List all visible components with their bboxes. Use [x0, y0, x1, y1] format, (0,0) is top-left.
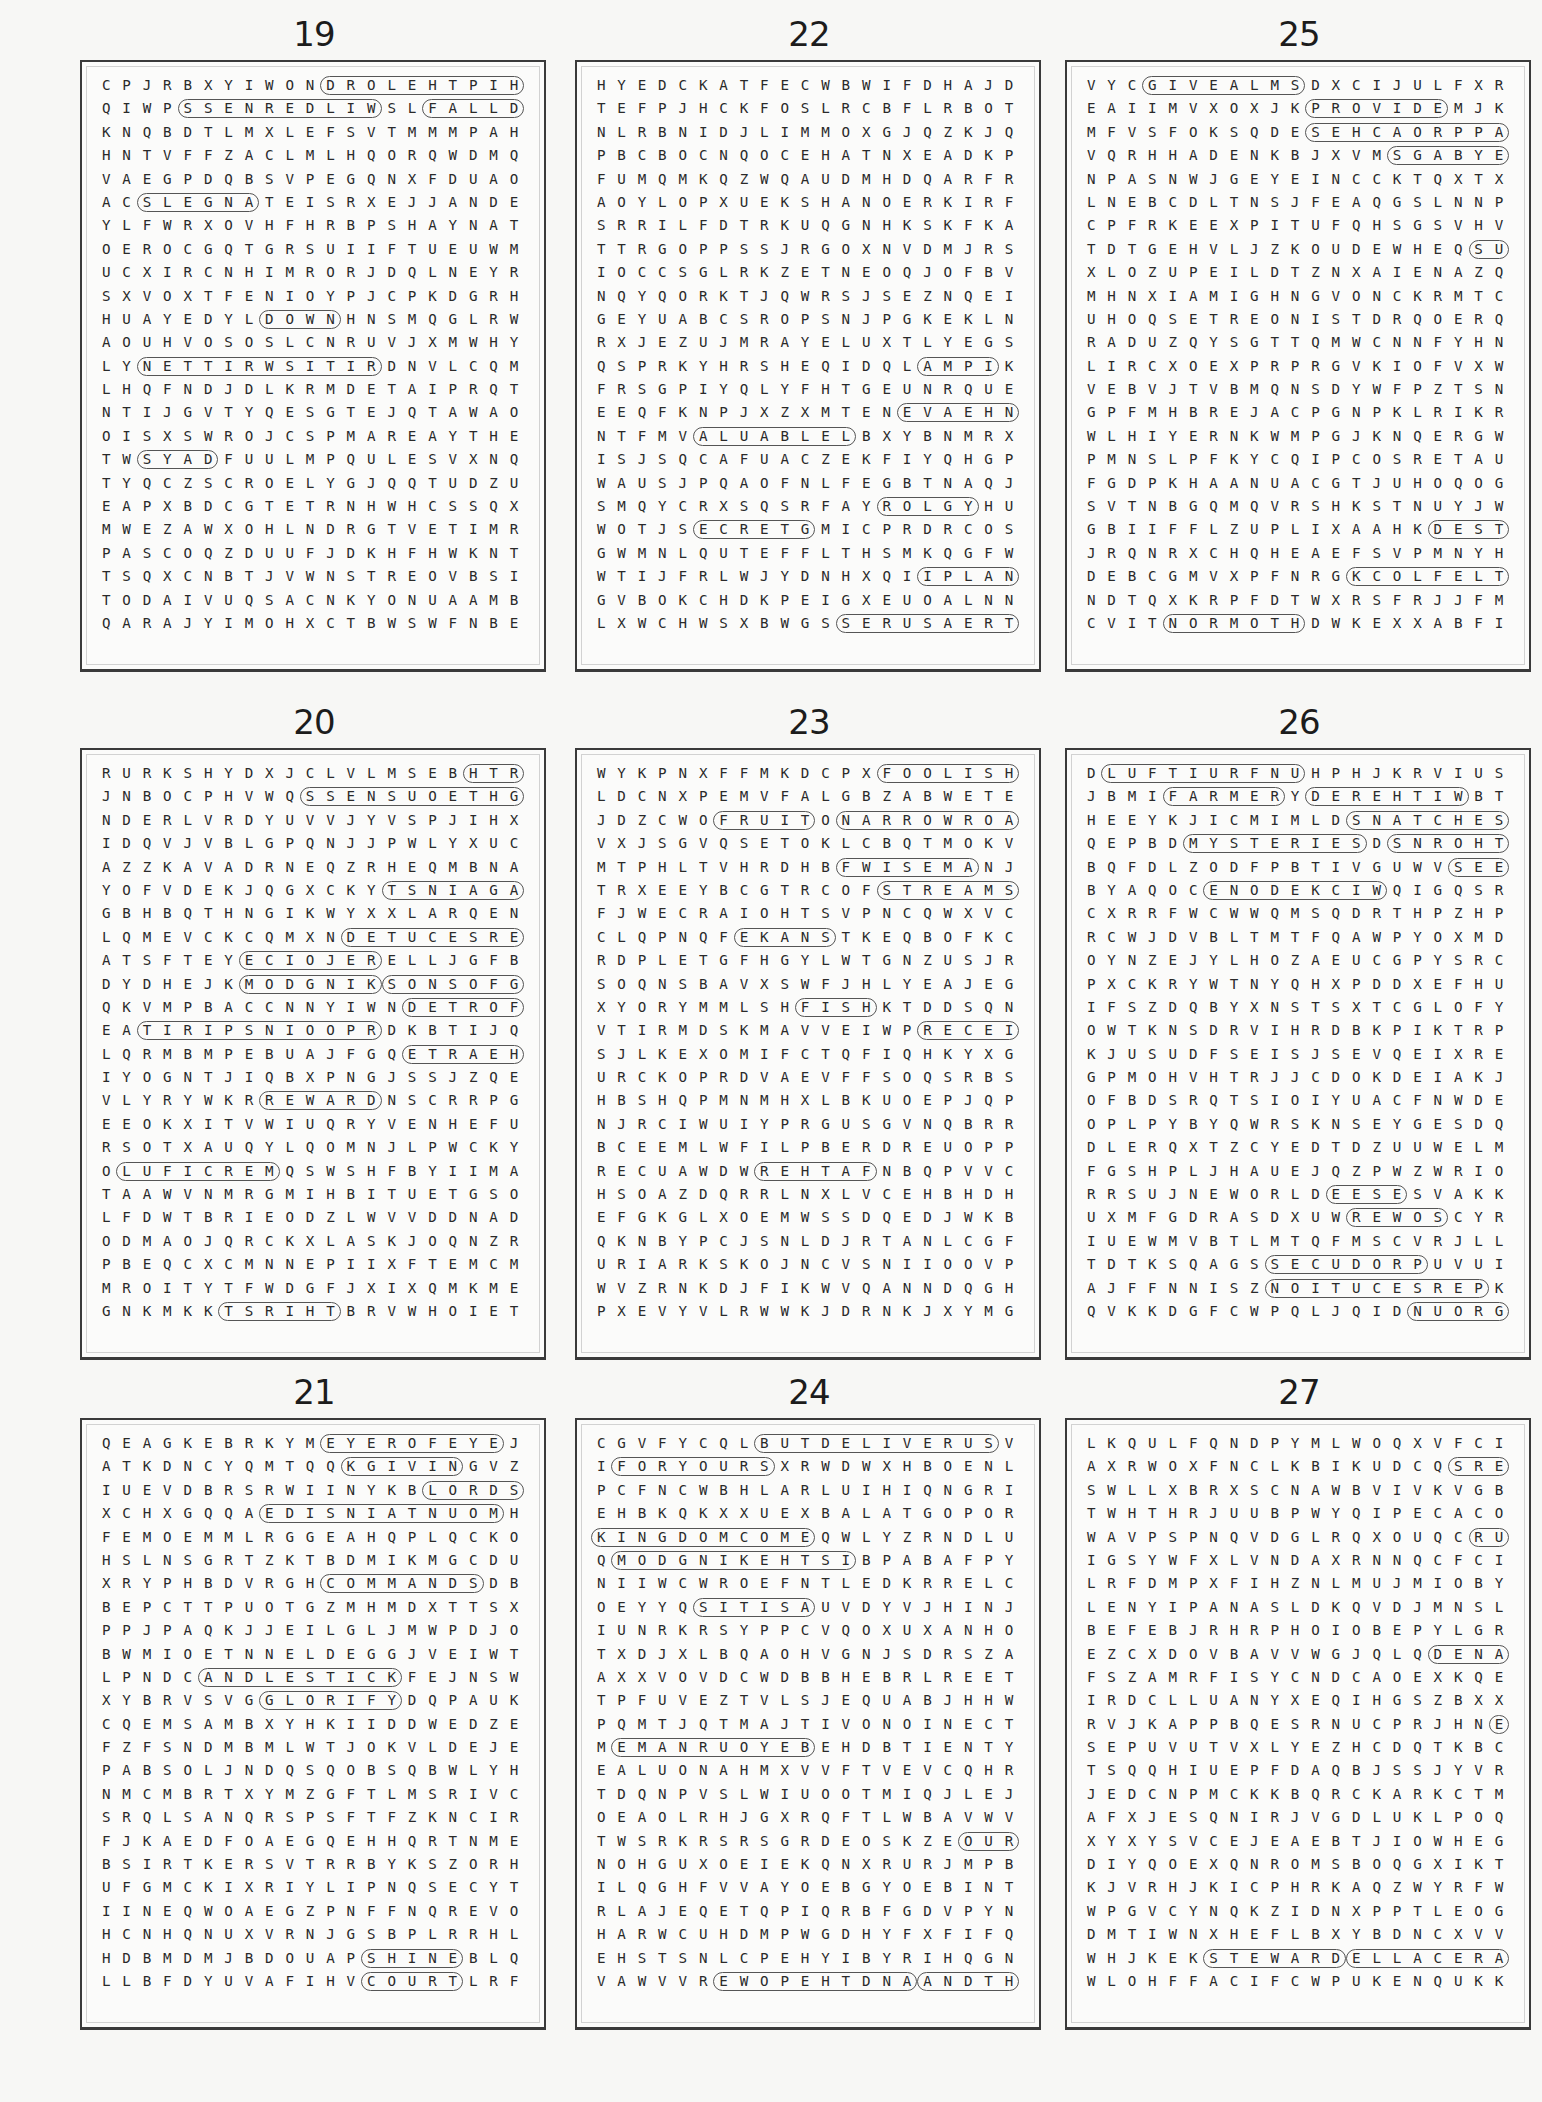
- grid-letter[interactable]: B: [137, 1689, 157, 1712]
- grid-letter[interactable]: N: [795, 472, 815, 495]
- grid-letter[interactable]: M: [1346, 1572, 1366, 1595]
- grid-letter[interactable]: U: [1346, 1970, 1366, 1993]
- grid-letter[interactable]: X: [856, 589, 876, 612]
- grid-letter[interactable]: S: [1428, 1206, 1448, 1229]
- grid-letter[interactable]: F: [1101, 996, 1121, 1019]
- grid-letter[interactable]: M: [652, 425, 672, 448]
- grid-letter[interactable]: N: [463, 1666, 483, 1689]
- grid-letter[interactable]: A: [1081, 1455, 1101, 1478]
- grid-letter[interactable]: J: [999, 856, 1019, 879]
- grid-letter[interactable]: B: [1081, 1619, 1101, 1642]
- grid-letter[interactable]: X: [300, 612, 320, 635]
- grid-letter[interactable]: R: [1407, 762, 1427, 785]
- grid-letter[interactable]: C: [632, 144, 652, 167]
- grid-letter[interactable]: E: [178, 1830, 198, 1853]
- grid-letter[interactable]: H: [422, 1300, 442, 1323]
- grid-letter[interactable]: K: [856, 448, 876, 471]
- grid-letter[interactable]: L: [381, 74, 401, 97]
- grid-letter[interactable]: N: [876, 238, 896, 261]
- grid-letter[interactable]: S: [341, 121, 361, 144]
- grid-letter[interactable]: E: [815, 425, 835, 448]
- grid-letter[interactable]: S: [815, 1549, 835, 1572]
- grid-letter[interactable]: E: [591, 1759, 611, 1782]
- grid-letter[interactable]: B: [1346, 1853, 1366, 1876]
- grid-letter[interactable]: G: [673, 832, 693, 855]
- grid-letter[interactable]: L: [1224, 949, 1244, 972]
- grid-letter[interactable]: T: [320, 1736, 340, 1759]
- grid-letter[interactable]: H: [978, 495, 998, 518]
- grid-letter[interactable]: W: [591, 565, 611, 588]
- grid-letter[interactable]: W: [734, 565, 754, 588]
- grid-letter[interactable]: T: [815, 1043, 835, 1066]
- grid-letter[interactable]: B: [463, 1947, 483, 1970]
- grid-letter[interactable]: J: [938, 1689, 958, 1712]
- grid-letter[interactable]: D: [632, 1643, 652, 1666]
- grid-letter[interactable]: P: [775, 589, 795, 612]
- grid-letter[interactable]: J: [1285, 1066, 1305, 1089]
- grid-letter[interactable]: B: [1305, 1455, 1325, 1478]
- grid-letter[interactable]: X: [693, 762, 713, 785]
- grid-letter[interactable]: Y: [978, 1900, 998, 1923]
- grid-letter[interactable]: D: [1142, 856, 1162, 879]
- grid-letter[interactable]: G: [1142, 238, 1162, 261]
- grid-letter[interactable]: A: [422, 214, 442, 237]
- grid-letter[interactable]: G: [876, 121, 896, 144]
- grid-letter[interactable]: V: [381, 1300, 401, 1323]
- grid-letter[interactable]: E: [1326, 1183, 1346, 1206]
- grid-letter[interactable]: R: [754, 1160, 774, 1183]
- grid-letter[interactable]: D: [198, 1830, 218, 1853]
- grid-letter[interactable]: L: [463, 308, 483, 331]
- grid-letter[interactable]: Q: [1428, 1970, 1448, 1993]
- grid-letter[interactable]: U: [116, 1479, 136, 1502]
- grid-letter[interactable]: N: [463, 191, 483, 214]
- grid-letter[interactable]: D: [381, 1019, 401, 1042]
- grid-letter[interactable]: P: [1366, 1160, 1386, 1183]
- grid-letter[interactable]: O: [1366, 1253, 1386, 1276]
- grid-letter[interactable]: L: [280, 331, 300, 354]
- grid-letter[interactable]: J: [673, 472, 693, 495]
- grid-letter[interactable]: D: [1305, 1900, 1325, 1923]
- grid-letter[interactable]: E: [1448, 308, 1468, 331]
- grid-letter[interactable]: O: [443, 1300, 463, 1323]
- grid-letter[interactable]: L: [611, 926, 631, 949]
- grid-letter[interactable]: J: [1244, 238, 1264, 261]
- grid-letter[interactable]: B: [1448, 144, 1468, 167]
- grid-letter[interactable]: S: [836, 612, 856, 635]
- grid-letter[interactable]: T: [1224, 191, 1244, 214]
- grid-letter[interactable]: S: [611, 1183, 631, 1206]
- grid-letter[interactable]: V: [673, 1689, 693, 1712]
- grid-letter[interactable]: N: [137, 1900, 157, 1923]
- grid-letter[interactable]: Q: [1203, 1089, 1223, 1112]
- grid-letter[interactable]: N: [1326, 1713, 1346, 1736]
- grid-letter[interactable]: R: [1203, 1206, 1223, 1229]
- grid-letter[interactable]: S: [795, 97, 815, 120]
- grid-letter[interactable]: B: [504, 1572, 524, 1595]
- grid-letter[interactable]: B: [999, 1206, 1019, 1229]
- grid-letter[interactable]: U: [938, 949, 958, 972]
- grid-letter[interactable]: I: [856, 1479, 876, 1502]
- grid-letter[interactable]: M: [483, 1502, 503, 1525]
- grid-letter[interactable]: R: [341, 1853, 361, 1876]
- grid-letter[interactable]: O: [361, 74, 381, 97]
- grid-letter[interactable]: G: [504, 973, 524, 996]
- grid-letter[interactable]: W: [632, 612, 652, 635]
- grid-letter[interactable]: G: [1407, 1853, 1427, 1876]
- grid-letter[interactable]: H: [300, 1572, 320, 1595]
- grid-letter[interactable]: A: [652, 1736, 672, 1759]
- grid-letter[interactable]: Q: [300, 832, 320, 855]
- grid-letter[interactable]: F: [1468, 1876, 1488, 1899]
- grid-letter[interactable]: J: [320, 542, 340, 565]
- grid-letter[interactable]: N: [632, 1526, 652, 1549]
- grid-letter[interactable]: C: [218, 472, 238, 495]
- grid-letter[interactable]: D: [1285, 1549, 1305, 1572]
- grid-letter[interactable]: V: [1122, 1876, 1142, 1899]
- grid-letter[interactable]: N: [137, 1923, 157, 1946]
- grid-letter[interactable]: O: [856, 1830, 876, 1853]
- grid-letter[interactable]: T: [381, 926, 401, 949]
- grid-letter[interactable]: E: [673, 1043, 693, 1066]
- grid-letter[interactable]: U: [795, 214, 815, 237]
- grid-letter[interactable]: T: [1407, 168, 1427, 191]
- grid-letter[interactable]: P: [775, 1900, 795, 1923]
- grid-letter[interactable]: E: [239, 1043, 259, 1066]
- grid-letter[interactable]: R: [1305, 1947, 1325, 1970]
